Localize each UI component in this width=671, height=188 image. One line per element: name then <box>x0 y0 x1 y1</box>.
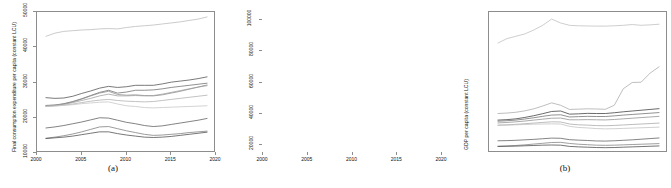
x-tick-mark <box>36 152 37 155</box>
y-tick-label: 20000 <box>10 113 32 119</box>
y-tick-label-text: 20000 <box>248 136 254 150</box>
x-tick-label: 2020 <box>203 156 227 162</box>
x-tick-label: 2015 <box>384 156 408 162</box>
line-series <box>498 19 659 43</box>
y-tick-label-text: 40000 <box>248 105 254 119</box>
x-tick-label: 2000 <box>24 156 48 162</box>
x-tick-label: 2005 <box>69 156 93 162</box>
panel-a: Final consumption expenditure per capita… <box>0 0 226 188</box>
y-tick-label-text: 30000 <box>22 74 28 88</box>
x-tick-mark <box>215 152 216 155</box>
y-tick-mark <box>259 144 262 145</box>
x-tick-mark <box>170 152 171 155</box>
y-tick-mark <box>33 117 36 118</box>
y-tick-mark <box>259 19 262 20</box>
x-tick-label: 2010 <box>114 156 138 162</box>
x-tick-label: 2000 <box>250 156 274 162</box>
x-tick-mark <box>262 152 263 155</box>
x-tick-mark <box>352 152 353 155</box>
y-tick-label: 80000 <box>236 46 258 52</box>
x-tick-mark <box>441 152 442 155</box>
x-tick-mark <box>126 152 127 155</box>
x-tick-label: 2005 <box>295 156 319 162</box>
y-tick-mark <box>33 46 36 47</box>
x-tick-label: 2015 <box>158 156 182 162</box>
panel-b-y-axis-label: GDP per capita (constant LCU) <box>463 0 475 150</box>
y-tick-label-text: 100000 <box>247 9 253 26</box>
line-series <box>498 138 659 141</box>
y-tick-mark <box>33 11 36 12</box>
panel-a-series-group <box>37 12 216 153</box>
panel-b: GDP per capita (constant LCU) 2000040000… <box>226 0 452 188</box>
line-series <box>498 67 659 114</box>
y-tick-label: 20000 <box>236 140 258 146</box>
y-tick-label-text: 80000 <box>248 42 254 56</box>
line-series <box>498 122 659 126</box>
y-tick-label: 10000 <box>10 148 32 154</box>
y-tick-label-text: 50000 <box>22 3 28 17</box>
y-tick-label-text: 60000 <box>248 74 254 88</box>
line-series <box>46 86 207 106</box>
panel-a-plot-area <box>36 11 215 152</box>
x-tick-label: 2020 <box>429 156 453 162</box>
panel-b-caption: (b) <box>452 163 671 173</box>
line-series <box>46 132 207 139</box>
x-tick-label: 2010 <box>340 156 364 162</box>
panel-b-plot-area <box>488 11 667 152</box>
y-tick-label-text: 40000 <box>22 38 28 52</box>
y-tick-label: 60000 <box>236 78 258 84</box>
x-tick-mark <box>396 152 397 155</box>
y-tick-mark <box>259 50 262 51</box>
y-tick-label: 50000 <box>10 7 32 13</box>
panel-a-caption: (a) <box>0 163 226 173</box>
x-tick-mark <box>81 152 82 155</box>
line-series <box>46 17 207 36</box>
y-tick-label: 40000 <box>10 42 32 48</box>
y-tick-label-text: 20000 <box>22 109 28 123</box>
y-tick-mark <box>33 82 36 83</box>
y-tick-label: 30000 <box>10 78 32 84</box>
panel-b-series-group <box>489 12 668 153</box>
line-series <box>46 118 207 128</box>
y-tick-label: 100000 <box>236 15 258 21</box>
y-tick-label: 40000 <box>236 109 258 115</box>
x-tick-mark <box>307 152 308 155</box>
y-tick-mark <box>259 82 262 83</box>
y-tick-mark <box>259 113 262 114</box>
